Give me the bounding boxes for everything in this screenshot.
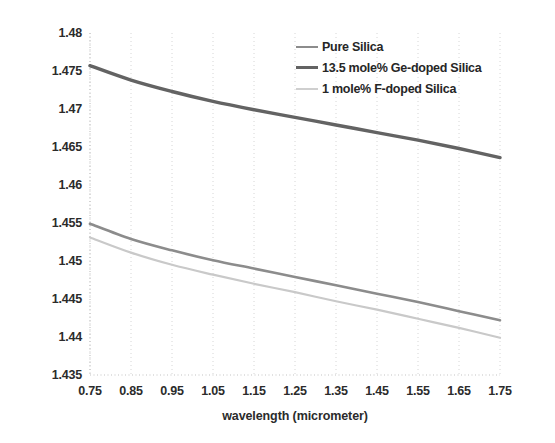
legend-item[interactable]: Pure Silica: [296, 36, 511, 57]
y-tick-label: 1.46: [22, 178, 82, 192]
y-tick-label: 1.455: [22, 216, 82, 230]
chart-legend: Pure Silica13.5 mole% Ge-doped Silica1 m…: [296, 36, 511, 99]
legend-item[interactable]: 1 mole% F-doped Silica: [296, 78, 511, 99]
line-chart: 1.4351.441.4451.451.4551.461.4651.471.47…: [0, 0, 555, 443]
legend-swatch-line-icon: [296, 88, 318, 90]
y-tick-label: 1.47: [22, 102, 82, 116]
y-tick-label: 1.475: [22, 64, 82, 78]
y-tick-label: 1.445: [22, 292, 82, 306]
legend-item[interactable]: 13.5 mole% Ge-doped Silica: [296, 57, 511, 78]
legend-item-label: 1 mole% F-doped Silica: [322, 82, 456, 96]
y-tick-label: 1.44: [22, 330, 82, 344]
y-tick-label: 1.45: [22, 254, 82, 268]
legend-item-label: Pure Silica: [322, 40, 383, 54]
y-tick-label: 1.465: [22, 140, 82, 154]
series-line: [90, 237, 500, 337]
legend-swatch-line-icon: [296, 66, 318, 69]
y-tick-label: 1.48: [22, 26, 82, 40]
y-tick-label: 1.435: [22, 368, 82, 382]
x-axis-title: wavelength (micrometer): [90, 409, 500, 423]
legend-swatch-line-icon: [296, 46, 318, 48]
x-tick-label: 1.75: [476, 384, 524, 398]
legend-item-label: 13.5 mole% Ge-doped Silica: [322, 61, 482, 75]
